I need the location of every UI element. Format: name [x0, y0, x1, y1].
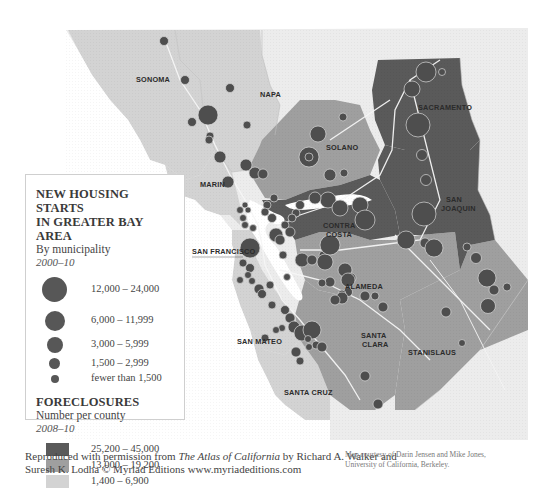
- label-santa-clara-1: SANTA: [361, 331, 387, 340]
- housing-legend-title-2: IN GREATER BAY AREA: [36, 215, 176, 243]
- label-santa-cruz: SANTA CRUZ: [284, 388, 333, 397]
- label-san-mateo: SAN MATEO: [237, 337, 282, 346]
- label-marin: MARIN: [200, 180, 225, 189]
- map-courtesy-line-1: Map courtesy of Darin Jensen and Mike Jo…: [345, 450, 486, 460]
- credit-line-1: Reproduced with permission from The Atla…: [25, 450, 397, 463]
- label-san-joaquin-2: JOAQUIN: [441, 204, 476, 213]
- size-dot-xs: [51, 375, 59, 383]
- reproduction-credit: Reproduced with permission from The Atla…: [25, 450, 397, 476]
- foreclosure-legend-title: FORECLOSURES: [36, 395, 176, 409]
- size-label-xs: fewer than 1,500: [91, 372, 162, 383]
- label-napa: NAPA: [260, 90, 281, 99]
- label-sonoma: SONOMA: [136, 75, 171, 84]
- housing-size-classes: 12,000 – 24,000 6,000 – 11,999 3,000 – 5…: [36, 269, 176, 387]
- housing-legend-years: 2000–10: [36, 256, 176, 269]
- label-contra-costa-1: CONTRA: [323, 221, 356, 230]
- housing-legend-title-1: NEW HOUSING STARTS: [36, 187, 176, 215]
- size-label-xl: 12,000 – 24,000: [91, 283, 159, 294]
- map-courtesy-credit: Map courtesy of Darin Jensen and Mike Jo…: [345, 450, 486, 470]
- size-dot-s: [49, 358, 60, 369]
- swatch-low: [46, 475, 69, 488]
- label-san-joaquin-1: SAN: [446, 195, 462, 204]
- size-label-l: 6,000 – 11,999: [91, 314, 154, 325]
- book-title: The Atlas of California: [178, 450, 280, 462]
- size-label-s: 1,500 – 2,999: [91, 357, 149, 368]
- label-santa-clara-2: CLARA: [362, 340, 389, 349]
- label-contra-costa-2: COSTA: [326, 230, 353, 239]
- credit-line-2: Suresh K. Lodha © Myriad Editions www.my…: [25, 463, 397, 476]
- swatch-label-low: 1,400 – 6,900: [91, 475, 149, 486]
- map-legend: NEW HOUSING STARTS IN GREATER BAY AREA B…: [25, 174, 185, 420]
- label-solano: SOLANO: [326, 143, 359, 152]
- size-dot-m: [47, 337, 63, 353]
- size-dot-xl: [42, 277, 67, 302]
- label-san-francisco: SAN FRANCISCO: [192, 247, 256, 256]
- label-sacramento: SACRAMENTO: [418, 103, 472, 112]
- size-label-m: 3,000 – 5,999: [91, 338, 149, 349]
- map-courtesy-line-2: University of California, Berkeley.: [345, 460, 486, 470]
- housing-legend-subtitle: By municipality: [36, 243, 176, 256]
- label-alameda: ALAMEDA: [345, 282, 383, 291]
- size-dot-l: [45, 311, 65, 331]
- foreclosure-legend-subtitle: Number per county: [36, 409, 176, 422]
- label-stanislaus: STANISLAUS: [408, 348, 456, 357]
- foreclosure-legend-years: 2008–10: [36, 422, 176, 435]
